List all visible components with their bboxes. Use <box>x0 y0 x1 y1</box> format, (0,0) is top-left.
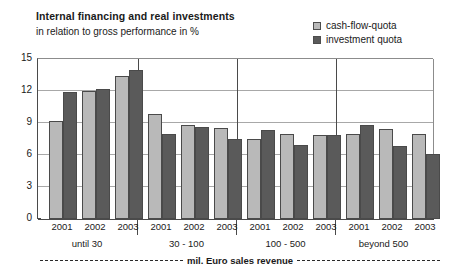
y-tick-label: 9 <box>2 117 32 127</box>
bar-cluster-2001 <box>346 59 374 219</box>
title-block: Internal financing and real investments … <box>36 10 235 38</box>
bar-cluster-2002 <box>181 59 209 219</box>
bar-investment-quota <box>360 125 374 219</box>
x-axis-caption: mil. Euro sales revenue <box>40 253 440 267</box>
x-tick-label: 2001 <box>144 221 178 232</box>
bar-cluster-2003 <box>412 59 440 219</box>
x-tick-label: 2003 <box>408 221 442 232</box>
bar-cluster-2002 <box>82 59 110 219</box>
dashed-rule-left <box>40 260 183 261</box>
bar-investment-quota <box>162 134 176 219</box>
bar-group-100-500 <box>237 59 336 219</box>
plot-area <box>37 58 433 219</box>
bar-investment-quota <box>261 130 275 219</box>
x-tick-label: 2001 <box>45 221 79 232</box>
bar-group-30-100 <box>138 59 237 219</box>
bar-cash-flow-quota <box>115 76 129 219</box>
x-tick-label: 2003 <box>111 221 145 232</box>
page-title: Internal financing and real investments <box>36 10 235 23</box>
legend-swatch-icon <box>313 36 321 44</box>
bar-cash-flow-quota <box>148 114 162 219</box>
x-axis: 2001 2002 2003 until 30 2001 2002 2003 3… <box>37 221 433 251</box>
x-tick-label: 2001 <box>243 221 277 232</box>
bar-cash-flow-quota <box>181 125 195 219</box>
bar-investment-quota <box>195 127 209 219</box>
bar-cash-flow-quota <box>49 121 63 219</box>
x-tick-label: 2002 <box>177 221 211 232</box>
bar-group-beyond-500 <box>336 59 433 219</box>
group-label-100-500: 100 - 500 <box>236 238 335 249</box>
dashed-rule-right <box>297 260 440 261</box>
x-tick-label: 2003 <box>210 221 244 232</box>
y-tick-label: 0 <box>2 213 32 223</box>
chart-legend: cash-flow-quota investment quota <box>313 19 402 47</box>
bar-cluster-2002 <box>280 59 308 219</box>
y-tick-label: 12 <box>2 85 32 95</box>
group-label-until-30: until 30 <box>37 238 137 249</box>
x-tick-label: 2003 <box>309 221 343 232</box>
x-axis-caption-label: mil. Euro sales revenue <box>183 255 297 266</box>
bar-cash-flow-quota <box>313 135 327 219</box>
legend-swatch-icon <box>313 22 321 30</box>
legend-item-label: investment quota <box>326 34 402 46</box>
legend-item-investment-quota: investment quota <box>313 33 402 47</box>
y-tick-label: 15 <box>2 53 32 63</box>
x-tick-label: 2001 <box>342 221 376 232</box>
bar-group-until-30 <box>38 59 138 219</box>
bar-cash-flow-quota <box>214 128 228 219</box>
legend-item-label: cash-flow-quota <box>326 20 397 32</box>
bar-cluster-2001 <box>247 59 275 219</box>
chart-header: Internal financing and real investments … <box>0 0 457 50</box>
group-label-30-100: 30 - 100 <box>137 238 236 249</box>
y-tick-label: 6 <box>2 149 32 159</box>
bar-investment-quota <box>294 145 308 219</box>
bar-cluster-2001 <box>49 59 77 219</box>
legend-item-cash-flow-quota: cash-flow-quota <box>313 19 402 33</box>
bar-cash-flow-quota <box>82 91 96 219</box>
x-tick-label: 2002 <box>78 221 112 232</box>
bar-investment-quota <box>393 146 407 219</box>
group-label-beyond-500: beyond 500 <box>335 238 432 249</box>
bar-cluster-2001 <box>148 59 176 219</box>
x-tick-label: 2002 <box>375 221 409 232</box>
chart-subtitle: in relation to gross performance in % <box>36 25 235 38</box>
bar-investment-quota <box>96 89 110 219</box>
y-tick-label: 3 <box>2 181 32 191</box>
x-tick-label: 2002 <box>276 221 310 232</box>
bar-cash-flow-quota <box>412 134 426 219</box>
bar-investment-quota <box>63 92 77 219</box>
bar-cluster-2002 <box>379 59 407 219</box>
bar-cash-flow-quota <box>346 134 360 219</box>
y-axis: 15 12 9 6 3 0 <box>0 58 32 219</box>
bar-investment-quota <box>426 154 440 219</box>
bar-cash-flow-quota <box>379 129 393 219</box>
bar-cash-flow-quota <box>247 139 261 219</box>
bar-cash-flow-quota <box>280 134 294 219</box>
